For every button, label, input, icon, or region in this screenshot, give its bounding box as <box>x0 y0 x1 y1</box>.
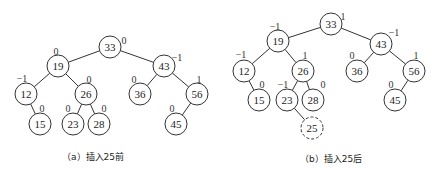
balance-factor: −1 <box>236 49 247 60</box>
tree-edge <box>401 80 408 91</box>
tree-node-23: 23−1 <box>276 79 298 112</box>
balance-factor: 0 <box>389 79 394 90</box>
tree-node-43: 43−1 <box>370 27 399 56</box>
tree-edge <box>294 108 304 120</box>
tree-node-19: 19−1 <box>267 21 289 53</box>
tree-edge <box>77 104 81 114</box>
tree-edge <box>31 104 36 114</box>
balance-factor: 1 <box>197 74 202 85</box>
tree-edge <box>341 28 371 40</box>
tree-edge <box>288 27 320 37</box>
balance-factor: −1 <box>172 52 183 63</box>
tree-node-45: 450 <box>165 103 187 136</box>
caption-before-insert: （a）插入25前 <box>62 150 124 163</box>
node-key: 23 <box>68 118 80 130</box>
balance-factor: 0 <box>260 79 265 90</box>
node-key: 33 <box>105 41 117 53</box>
tree-edge <box>364 52 373 63</box>
balance-factor: 0 <box>87 74 92 85</box>
tree-edge <box>120 51 153 63</box>
tree-node-56: 561 <box>403 50 425 83</box>
balance-factor: 1 <box>341 11 346 22</box>
balance-factor: 0 <box>54 46 59 57</box>
avl-tree-diagram: 33019043−112−1260360561150230280450 3311… <box>0 0 436 170</box>
tree-node-33: 330 <box>99 35 127 59</box>
node-key: 56 <box>409 65 421 77</box>
node-key: 36 <box>352 65 364 77</box>
balance-factor: −1 <box>17 73 28 84</box>
node-key: 25 <box>307 122 319 134</box>
node-key: 23 <box>282 94 294 106</box>
tree-node-43: 43−1 <box>153 52 182 78</box>
tree-node-28: 280 <box>302 79 326 112</box>
balance-factor: 0 <box>40 103 45 114</box>
tree-edge <box>292 81 297 91</box>
tree-edge <box>285 49 296 62</box>
tree-edge <box>34 73 49 87</box>
tree-node-56: 561 <box>186 74 208 106</box>
tree-node-36: 360 <box>346 50 368 83</box>
node-key: 36 <box>135 88 147 100</box>
node-key: 33 <box>326 18 338 30</box>
tree-edge <box>66 74 78 86</box>
balance-factor: −1 <box>278 79 289 90</box>
node-key: 15 <box>254 94 266 106</box>
node-key: 12 <box>21 88 32 100</box>
balance-factor: 1 <box>414 50 419 61</box>
node-key: 28 <box>94 118 106 130</box>
node-key: 56 <box>192 88 204 100</box>
balance-factor: 0 <box>350 50 355 61</box>
balance-factor: 0 <box>102 103 107 114</box>
node-key: 26 <box>298 65 310 77</box>
tree-node-12: 12−1 <box>233 49 255 83</box>
tree-node-19: 190 <box>47 46 69 78</box>
tree-edge <box>307 81 310 89</box>
node-key: 26 <box>81 88 93 100</box>
node-key: 12 <box>239 65 250 77</box>
node-key: 19 <box>273 35 285 47</box>
tree-node-36: 360 <box>129 74 151 106</box>
tree-edge <box>68 51 99 62</box>
node-key: 15 <box>35 118 47 130</box>
tree-after-insert: 33119−143−112−126136056115023−128045025 <box>233 11 425 140</box>
balance-factor: 0 <box>170 103 175 114</box>
tree-before-insert: 33019043−112−1260360561150230280450 <box>15 35 208 136</box>
tree-node-15: 150 <box>248 79 270 112</box>
tree-node-26: 260 <box>75 74 97 106</box>
balance-factor: 0 <box>66 103 71 114</box>
tree-edge <box>90 104 94 114</box>
tree-node-33: 331 <box>320 11 346 36</box>
balance-factor: 0 <box>122 35 127 46</box>
balance-factor: 0 <box>321 79 326 90</box>
tree-node-25: 25 <box>301 117 323 139</box>
node-key: 28 <box>308 94 320 106</box>
node-key: 43 <box>376 38 388 50</box>
tree-node-12: 12−1 <box>15 73 37 106</box>
caption-after-insert: （b）插入25后 <box>300 152 362 165</box>
tree-edge <box>390 51 406 64</box>
tree-node-45: 450 <box>384 79 406 112</box>
tree-edge <box>147 74 157 85</box>
node-key: 45 <box>171 118 183 130</box>
balance-factor: 1 <box>303 50 308 61</box>
tree-edge <box>172 73 188 87</box>
node-key: 45 <box>390 94 402 106</box>
node-key: 43 <box>159 60 171 72</box>
node-key: 19 <box>53 60 65 72</box>
balance-factor: −1 <box>270 21 281 32</box>
tree-edge <box>249 81 254 90</box>
tree-edge <box>252 48 270 63</box>
balance-factor: −1 <box>389 27 400 38</box>
balance-factor: 0 <box>132 74 137 85</box>
tree-node-26: 261 <box>292 50 314 83</box>
tree-edge <box>182 103 190 115</box>
